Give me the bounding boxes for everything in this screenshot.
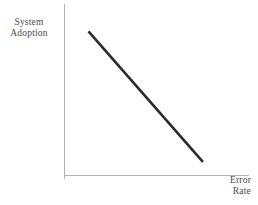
trend-line-series-1: [88, 31, 202, 161]
chart-figure: System Adoption Error Rate: [0, 0, 258, 205]
y-axis-label-line-1: System: [0, 17, 58, 28]
y-axis-label: System Adoption: [0, 17, 58, 39]
x-axis-label-line-2: Rate: [230, 186, 251, 197]
y-axis-label-line-2: Adoption: [0, 28, 58, 39]
x-axis-label-line-1: Error: [230, 175, 251, 186]
x-axis-label: Error Rate: [230, 175, 251, 197]
